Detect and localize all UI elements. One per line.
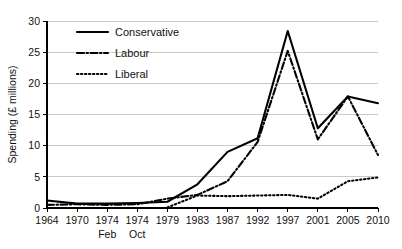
x-tick-sublabel-oct: Oct <box>129 228 145 240</box>
y-tick-label-10: 10 <box>28 139 40 151</box>
gridlines <box>47 21 378 208</box>
y-axis <box>43 21 47 208</box>
legend-label-conservative: Conservative <box>115 26 179 38</box>
y-axis-title-label: Spending (£ millions) <box>6 65 18 163</box>
x-tick-sublabel-feb: Feb <box>98 228 116 240</box>
x-tick-label-3: 1974 <box>126 214 150 226</box>
y-tick-label-30: 30 <box>28 15 40 27</box>
x-tick-label-10: 2005 <box>336 214 360 226</box>
x-tick-label-2: 1974 <box>96 214 120 226</box>
x-tick-label-8: 1997 <box>276 214 300 226</box>
chart-canvas: 051015202530 196419701974Feb1974Oct19791… <box>0 0 402 249</box>
legend-label-liberal: Liberal <box>115 68 148 80</box>
y-tick-label-0: 0 <box>34 202 40 214</box>
y-tick-label-25: 25 <box>28 46 40 58</box>
y-axis-title: Spending (£ millions) <box>6 65 18 163</box>
y-tick-label-15: 15 <box>28 108 40 120</box>
y-tick-label-5: 5 <box>34 171 40 183</box>
x-tick-label-1: 1970 <box>65 214 89 226</box>
x-tick-label-9: 2001 <box>306 214 330 226</box>
y-tick-label-20: 20 <box>28 77 40 89</box>
x-tick-label-7: 1992 <box>246 214 270 226</box>
x-tick-label-4: 1979 <box>156 214 180 226</box>
x-tick-label-0: 1964 <box>35 214 59 226</box>
spending-line-chart: 051015202530 196419701974Feb1974Oct19791… <box>0 0 402 249</box>
x-tick-label-11: 2010 <box>366 214 390 226</box>
x-tick-label-5: 1983 <box>186 214 210 226</box>
legend-label-labour: Labour <box>115 47 150 59</box>
data-series <box>47 31 378 207</box>
x-axis <box>47 208 378 212</box>
chart-legend: ConservativeLabourLiberal <box>77 26 179 80</box>
x-tick-label-6: 1987 <box>216 214 240 226</box>
x-tick-labels: 196419701974Feb1974Oct197919831987199219… <box>35 214 390 240</box>
series-line-conservative <box>47 31 378 204</box>
y-tick-labels: 051015202530 <box>28 15 40 214</box>
